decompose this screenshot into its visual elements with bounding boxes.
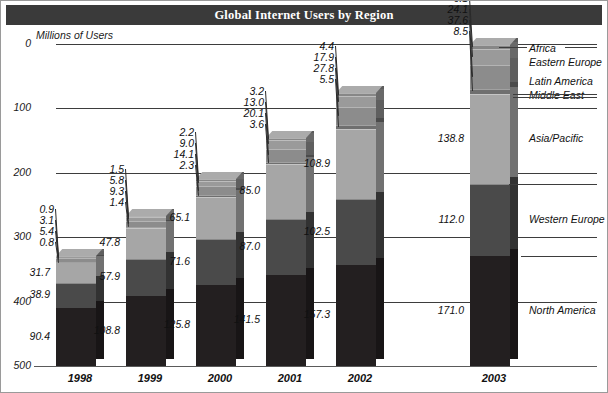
bar-top-cap — [56, 249, 102, 256]
chart-title-bar: Global Internet Users by Region — [6, 5, 602, 25]
bar-value-label: 31.7 — [6, 266, 50, 278]
legend-connector-rule — [499, 47, 527, 48]
bar-segment[interactable] — [56, 283, 96, 308]
bar-top-cap — [196, 172, 242, 179]
page-title: Global Internet Users by Region — [6, 5, 602, 25]
bar-segment[interactable] — [56, 258, 96, 261]
bar-segment[interactable] — [336, 96, 376, 108]
bar-segment-side — [376, 192, 384, 258]
bar-value-label: 47.8 — [76, 236, 120, 248]
bar-value-label: 102.5 — [286, 225, 330, 237]
bar-segment-side — [510, 42, 518, 58]
y-axis-title: Millions of Users — [36, 29, 113, 41]
bar-value-label: 90.4 — [6, 330, 50, 342]
x-axis-tick-label: 2002 — [330, 372, 390, 384]
x-axis-tick-label: 2000 — [190, 372, 250, 384]
y-axis-tick-label: 200 — [1, 166, 31, 178]
bar-value-label: 112.0 — [420, 213, 464, 225]
axis-baseline — [34, 366, 597, 367]
chart-figure: Global Internet Users by Region Millions… — [0, 0, 608, 393]
bar-value-label: 108.9 — [286, 157, 330, 169]
bar-segment-side — [166, 221, 174, 252]
bar-segment[interactable] — [266, 164, 306, 219]
bar-value-label: 141.5 — [216, 313, 260, 325]
bar-segment[interactable] — [470, 49, 510, 65]
bar-segment[interactable] — [196, 285, 236, 366]
bar-value-label-small: 5.5 — [294, 73, 334, 85]
bar-segment-side — [510, 87, 518, 176]
bar-value-label-small: 8.5 — [428, 25, 468, 37]
bar-segment[interactable] — [470, 89, 510, 94]
bar-segment[interactable] — [126, 296, 166, 366]
bar-segment-side — [96, 255, 104, 256]
y-axis-tick-label: 500 — [1, 359, 31, 371]
bar-segment[interactable] — [470, 184, 510, 256]
bar-value-label: 157.3 — [286, 308, 330, 320]
bar-value-label: 108.8 — [76, 324, 120, 336]
bar-segment[interactable] — [336, 107, 376, 125]
bar-segment[interactable] — [266, 275, 306, 366]
bar-segment[interactable] — [470, 65, 510, 89]
legend-connector-rule — [565, 47, 597, 48]
bar-top-cap — [336, 86, 382, 93]
legend-item-north-america[interactable]: North America — [529, 304, 596, 316]
legend-connector-rule — [513, 94, 597, 95]
bar-segment-side — [376, 258, 384, 359]
x-axis-tick-label: 1999 — [120, 372, 180, 384]
bar-segment-side — [306, 142, 314, 155]
bar-segment-side — [510, 82, 518, 87]
bar-segment-side — [510, 249, 518, 359]
bar-segment[interactable] — [266, 140, 306, 148]
bar-segment[interactable] — [336, 125, 376, 129]
bar-top-cap — [266, 131, 312, 138]
bar-value-label: 71.6 — [146, 255, 190, 267]
bar-segment-side — [376, 100, 384, 118]
bar-segment-side — [236, 232, 244, 278]
x-axis-tick-label: 1998 — [50, 372, 110, 384]
bar-value-label: 171.0 — [420, 304, 464, 316]
x-axis-tick-label: 2001 — [260, 372, 320, 384]
y-axis-tick-label: 100 — [1, 101, 31, 113]
bar-top-cap — [470, 38, 516, 45]
bar-segment[interactable] — [126, 227, 166, 228]
bar-segment[interactable] — [336, 93, 376, 96]
bar-value-label: 85.0 — [216, 184, 260, 196]
plot-area: Millions of Users 0100200300400500199819… — [1, 25, 608, 393]
bar-segment[interactable] — [336, 199, 376, 265]
bar-segment[interactable] — [196, 179, 236, 180]
bar-segment[interactable] — [56, 262, 96, 263]
bar-value-label-small: 2.3 — [154, 159, 194, 171]
bar-value-label-small: 3.6 — [224, 118, 264, 130]
legend-item-africa[interactable]: Africa — [529, 42, 556, 54]
bar-segment[interactable] — [470, 94, 510, 183]
legend-connector-rule — [521, 256, 597, 257]
legend-connector-rule — [509, 184, 597, 185]
legend-item-eastern-europe[interactable]: Eastern Europe — [529, 56, 602, 68]
bar-segment[interactable] — [336, 265, 376, 366]
bar-segment-side — [376, 118, 384, 122]
bar-segment[interactable] — [266, 138, 306, 140]
bar-segment-side — [306, 212, 314, 268]
bar-value-label: 125.8 — [146, 318, 190, 330]
x-axis-tick-label: 2003 — [464, 372, 524, 384]
bar-segment[interactable] — [336, 129, 376, 199]
bar-value-label: 38.9 — [6, 288, 50, 300]
legend-item-western-europe[interactable]: Western Europe — [529, 213, 605, 225]
bar-segment-side — [376, 122, 384, 192]
bar-segment[interactable] — [196, 197, 236, 239]
bar-segment[interactable] — [56, 308, 96, 366]
bar-value-label: 87.0 — [216, 240, 260, 252]
bar-segment-side — [510, 58, 518, 82]
legend-item-latin-america[interactable]: Latin America — [529, 75, 593, 87]
bar-value-label: 138.8 — [420, 132, 464, 144]
y-axis-tick-label: 0 — [1, 37, 31, 49]
legend-item-asia-pacific[interactable]: Asia/Pacific — [529, 132, 583, 144]
bar-value-label: 65.1 — [146, 211, 190, 223]
bar-value-label: 57.9 — [76, 270, 120, 282]
bar-segment-side — [510, 177, 518, 249]
legend-connector-rule — [513, 97, 597, 98]
bar-value-label-small: 1.4 — [84, 196, 124, 208]
bar-segment[interactable] — [470, 256, 510, 366]
bar-value-label-small: 0.8 — [14, 236, 54, 248]
